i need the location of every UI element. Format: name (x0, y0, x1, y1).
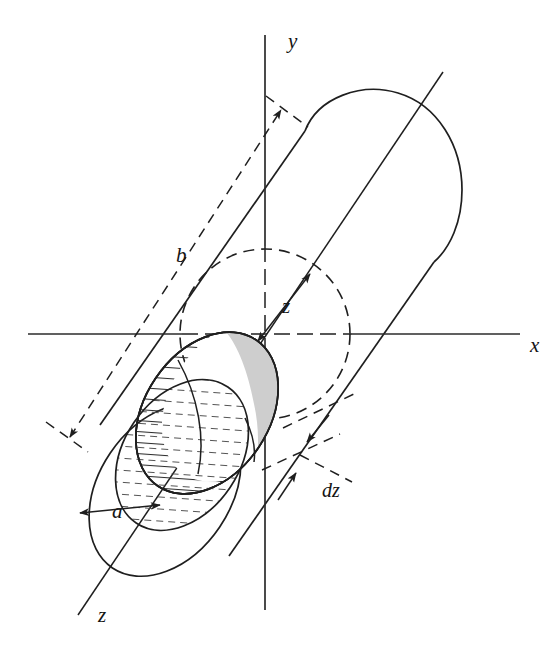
z-axis-label: z (97, 603, 106, 627)
cylinder-far-cap (305, 89, 462, 262)
y-axis-label: y (286, 29, 298, 53)
x-axis-label: x (529, 333, 540, 357)
half-length-label: b (176, 243, 187, 267)
radius-label: a (112, 499, 123, 523)
z-distance-label: z (281, 294, 290, 318)
cylinder-dz-diagram: y x z z a b dz (0, 0, 560, 645)
figure-container: y x z z a b dz (0, 0, 560, 645)
thickness-label: dz (322, 479, 340, 501)
